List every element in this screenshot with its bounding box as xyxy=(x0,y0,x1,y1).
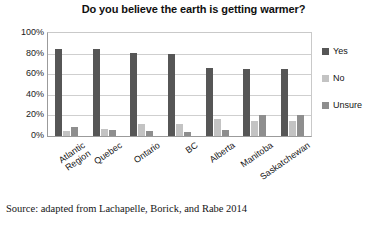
y-axis: 100%80%60%40%20%0% xyxy=(0,32,44,137)
bars-layer xyxy=(48,33,311,136)
x-axis-tick-label: Ontario xyxy=(132,140,162,165)
x-axis-labels: AtlanticRegionQuebecOntarioBCAlbertaMani… xyxy=(0,137,387,192)
bar-yes xyxy=(93,49,100,136)
legend-label-no: No xyxy=(333,73,345,83)
bar-yes xyxy=(55,49,62,136)
bar-no xyxy=(101,129,108,136)
x-axis-tick-label: AtlanticRegion xyxy=(57,140,93,174)
legend-swatch-yes-icon xyxy=(322,48,329,55)
bar-unsure xyxy=(184,132,191,136)
bar-no xyxy=(63,131,70,136)
y-axis-tick-label: 100% xyxy=(0,28,44,37)
y-axis-tick-label: 60% xyxy=(0,69,44,78)
legend-swatch-unsure-icon xyxy=(322,102,329,109)
bar-yes xyxy=(168,54,175,136)
bar-group xyxy=(273,33,311,136)
bar-group xyxy=(48,33,86,136)
chart-legend: Yes No Unsure xyxy=(322,46,384,127)
chart-title: Do you believe the earth is getting warm… xyxy=(0,3,387,15)
source-note: Source: adapted from Lachapelle, Borick,… xyxy=(6,203,247,214)
bar-no xyxy=(289,121,296,136)
bar-unsure xyxy=(109,130,116,136)
legend-label-unsure: Unsure xyxy=(333,100,362,110)
bar-no xyxy=(176,124,183,136)
bar-group xyxy=(236,33,274,136)
bar-no xyxy=(138,124,145,136)
bar-unsure xyxy=(259,115,266,136)
bar-group xyxy=(161,33,199,136)
bar-unsure xyxy=(146,131,153,136)
legend-item-no[interactable]: No xyxy=(322,73,384,83)
legend-item-yes[interactable]: Yes xyxy=(322,46,384,56)
bar-unsure xyxy=(297,115,304,136)
bar-yes xyxy=(130,53,137,136)
legend-item-unsure[interactable]: Unsure xyxy=(322,100,384,110)
bar-no xyxy=(251,121,258,136)
bar-yes xyxy=(243,69,250,136)
bar-no xyxy=(214,119,221,137)
x-axis-tick-label: Quebec xyxy=(93,140,125,167)
bar-yes xyxy=(281,69,288,136)
legend-label-yes: Yes xyxy=(333,46,348,56)
bar-group xyxy=(198,33,236,136)
y-axis-tick-label: 20% xyxy=(0,110,44,119)
bar-unsure xyxy=(222,130,229,136)
y-axis-tick-label: 80% xyxy=(0,49,44,58)
bar-yes xyxy=(206,68,213,136)
bar-group xyxy=(86,33,124,136)
x-axis-tick-label: BC xyxy=(183,140,199,156)
x-axis-tick-label: Alberta xyxy=(208,140,237,165)
bar-unsure xyxy=(71,127,78,136)
bar-group xyxy=(123,33,161,136)
y-axis-tick-label: 40% xyxy=(0,90,44,99)
legend-swatch-no-icon xyxy=(322,75,329,82)
